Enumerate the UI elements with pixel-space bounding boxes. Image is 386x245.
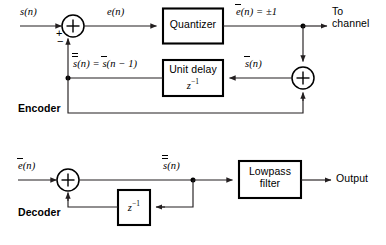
decoder-delay-exponent: −1 [132, 199, 140, 208]
label-to-channel: Tochannel [332, 6, 384, 30]
unit-delay-exponent: −1 [191, 77, 199, 86]
to-channel-line2: channel [332, 17, 369, 29]
decoder-recon-rest: (n) [167, 160, 180, 171]
quantized-error-rest: (n) = ±1 [241, 6, 277, 17]
unit-delay-label: Unit delay [163, 64, 223, 76]
label-feedback-prediction: s(n) = s(n − 1) [73, 58, 137, 70]
lowpass-line2: filter [260, 177, 280, 189]
feedback-left-base: s [73, 58, 77, 69]
wire-decoder-delay-feedback [68, 196, 118, 207]
label-decoder-reconstruction: s(n) [163, 160, 180, 172]
encoder-section-label: Encoder [18, 103, 61, 115]
feedback-mid: (n) = [77, 58, 102, 69]
lowpass-filter-label: Lowpassfilter [239, 166, 301, 190]
decoder-input-base: e [18, 160, 23, 171]
label-error-signal: e(n) [107, 6, 124, 18]
predictor-rest: (n) [249, 58, 262, 69]
label-quantized-error: e(n) = ±1 [236, 6, 277, 18]
decoder-recon-base: s [163, 160, 167, 171]
decoder-section-label: Decoder [18, 207, 61, 219]
label-predictor-output: s(n) [245, 58, 262, 70]
feedback-right-base: s [102, 58, 106, 69]
decoder-input-rest: (n) [23, 160, 36, 171]
wire-decoder-junction-to-delay [159, 180, 194, 207]
decoder-delay-label: z−1 [118, 200, 150, 213]
label-encoder-input: s(n) [20, 6, 37, 18]
to-channel-line1: To [332, 5, 343, 17]
quantized-error-base: e [236, 6, 241, 17]
quantizer-label: Quantizer [163, 19, 223, 31]
label-decoder-input: e(n) [18, 160, 35, 172]
block-diagram-figure: s(n) + − e(n) Quantizer e(n) = ±1 Tochan… [0, 0, 386, 245]
unit-delay-z-label: z−1 [163, 78, 223, 91]
summer1-minus-sign: − [57, 35, 64, 47]
lowpass-line1: Lowpass [249, 165, 291, 177]
figure-caption [0, 236, 386, 245]
feedback-tail: (n − 1) [107, 58, 138, 69]
label-decoder-output: Output [336, 173, 368, 185]
predictor-base: s [245, 58, 249, 69]
